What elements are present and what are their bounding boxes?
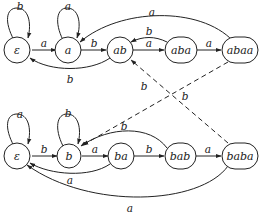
state-top-eps: ε [4, 37, 30, 63]
svg-text:ab: ab [113, 44, 127, 57]
svg-text:b: b [65, 150, 72, 163]
svg-text:abaa: abaa [227, 44, 254, 57]
label-bottom-b-ba: a [92, 143, 98, 155]
label-top-aba-abaa: a [206, 37, 212, 49]
label-top-ab-eps: b [67, 73, 74, 85]
svg-text:ε: ε [14, 44, 20, 57]
edge-cross-baba-ab [131, 60, 228, 143]
state-top-aba: aba [165, 37, 197, 63]
state-bottom-eps: ε [4, 143, 30, 169]
svg-text:ε: ε [14, 150, 20, 163]
svg-text:bab: bab [170, 150, 191, 163]
edge-cross-abaa-b [83, 62, 228, 145]
label-bottom-ba-eps: a [67, 174, 73, 186]
label-bottom-eps-b: b [41, 143, 48, 155]
label-bottom-bab-b: b [121, 120, 128, 132]
label-top-eps-a: a [41, 37, 47, 49]
label-top-aba-ab: b [146, 25, 153, 37]
label-bottom-bab-baba: a [205, 143, 211, 155]
label-bottom-b-loop: b [65, 107, 72, 119]
svg-text:a: a [65, 44, 72, 57]
label-bottom-baba-eps: a [127, 202, 133, 213]
svg-text:aba: aba [171, 44, 191, 57]
label-cross-baba-ab: b [182, 90, 189, 102]
label-top-ab-aba: a [146, 37, 152, 49]
state-bottom-bab: bab [165, 143, 196, 169]
label-bottom-ba-bab: b [146, 143, 153, 155]
edge-top-a-loop [58, 8, 79, 40]
svg-text:baba: baba [226, 150, 253, 163]
state-bottom-b: b [57, 144, 81, 168]
svg-text:ba: ba [114, 150, 128, 163]
state-top-a: a [55, 37, 81, 63]
label-bottom-eps-loop: a [17, 108, 23, 120]
state-top-abaa: abaa [222, 37, 258, 63]
state-bottom-baba: baba [222, 143, 258, 169]
label-top-a-loop: a [65, 0, 71, 12]
automata-diagram: b a a b b a b a a ε a [0, 0, 259, 213]
edge-top-eps-loop [8, 8, 30, 40]
cross-transitions: b b [83, 60, 228, 145]
label-top-eps-loop: b [17, 0, 24, 12]
label-top-a-ab: b [91, 37, 98, 49]
top-automaton: b a a b b a b a a ε a [4, 0, 258, 85]
state-top-ab: ab [107, 37, 133, 63]
state-bottom-ba: ba [108, 143, 134, 169]
bottom-automaton: a b b a a b b a a ε b [4, 107, 258, 213]
edge-bottom-baba-eps [27, 165, 228, 197]
label-cross-abaa-b: b [141, 80, 148, 92]
label-top-abaa-a: a [149, 6, 155, 18]
